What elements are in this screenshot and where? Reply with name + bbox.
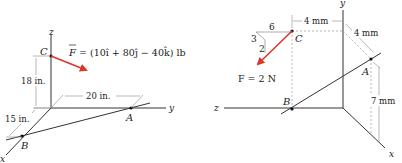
point-a-label: A: [125, 112, 133, 123]
dim-4mm-top-label: 4 mm: [304, 16, 328, 26]
z-axis-label: z: [48, 27, 54, 37]
point-b-label: B: [282, 96, 290, 107]
construction-lines: [292, 31, 371, 134]
point-a: [369, 57, 372, 60]
slope-hypotenuse: 3: [251, 34, 257, 44]
dim-4mm-side-label: 4 mm: [354, 28, 378, 38]
y-axis-label: y: [339, 0, 346, 8]
dim-7mm-label: 7 mm: [371, 96, 395, 106]
y-axis-label: y: [168, 103, 175, 113]
point-a-label: A: [361, 66, 369, 77]
slope-vertical: 2: [259, 44, 265, 54]
point-b: [290, 107, 293, 110]
dim-20-ext-left: [51, 95, 63, 108]
z-axis-label: z: [213, 103, 219, 113]
x-axis-label: x: [389, 149, 394, 159]
left-figure: z y x A B C F = (10î + 80ĵ − 40k̂) lb 18…: [0, 27, 186, 163]
x-axis-label: x: [0, 154, 5, 163]
force-symbol: F: [68, 47, 77, 58]
force-equation: F = (10î + 80ĵ − 40k̂) lb: [68, 45, 186, 58]
figure-canvas: z y x A B C F = (10î + 80ĵ − 40k̂) lb 18…: [0, 0, 402, 163]
force-label: F = 2 N: [238, 73, 276, 84]
point-c-label: C: [40, 46, 48, 57]
point-b-label: B: [20, 140, 28, 151]
dim-18-label: 18 in.: [21, 76, 45, 86]
slope-horizontal: 6: [269, 22, 275, 32]
dim-15-label: 15 in.: [5, 114, 29, 124]
force-expression: = (10î + 80ĵ − 40k̂) lb: [79, 46, 186, 58]
line-ab: [281, 53, 381, 114]
force-arrow: [51, 56, 86, 70]
point-c-label: C: [295, 33, 303, 44]
right-figure: y z x A B C 6 3 2 F: [213, 0, 402, 159]
dim-20-label: 20 in.: [86, 91, 110, 101]
